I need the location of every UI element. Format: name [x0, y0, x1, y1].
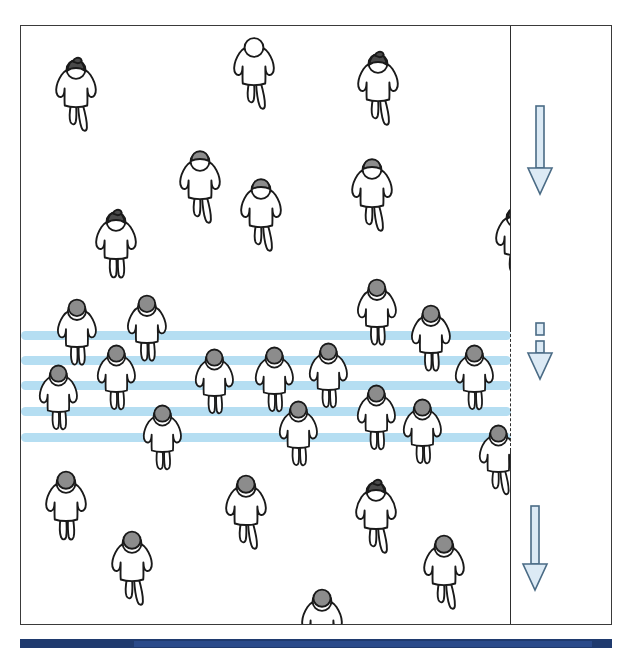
- flow-arrow-lower: [520, 506, 550, 596]
- pedestrian-figure: [33, 364, 84, 441]
- pedestrian-figure: [489, 204, 511, 286]
- diagram-frame: [20, 25, 612, 625]
- pedestrian-figure: [89, 208, 143, 290]
- pedestrian-figure: [449, 344, 500, 421]
- pedestrian-figure: [234, 176, 288, 258]
- pedestrian-figure: [345, 156, 399, 238]
- pedestrian-figure: [227, 34, 281, 116]
- pedestrian-figure: [349, 478, 403, 560]
- lane-divider-solid-bottom: [510, 451, 511, 625]
- pedestrian-figure: [417, 534, 471, 616]
- pedestrian-figure: [173, 148, 227, 230]
- flow-arrow-middle: [525, 323, 555, 385]
- lane-divider-solid-top: [510, 26, 511, 329]
- pedestrian-figure: [49, 56, 103, 138]
- pedestrian-figure: [295, 588, 349, 624]
- pedestrian-figure: [219, 474, 273, 556]
- pedestrian-figure: [473, 424, 511, 501]
- pedestrian-figure: [39, 470, 93, 552]
- bottom-accent-bar-inner-segment: [134, 641, 592, 647]
- walkway-area: [21, 26, 511, 624]
- lane-divider-dashed: [510, 329, 511, 451]
- pedestrian-figure: [351, 50, 405, 132]
- pedestrian-figure: [189, 348, 240, 425]
- pedestrian-figure: [91, 344, 142, 421]
- pedestrian-figure: [351, 384, 402, 461]
- diagram-canvas: [0, 0, 634, 651]
- pedestrian-figure: [273, 400, 324, 477]
- pedestrian-figure: [351, 278, 403, 357]
- pedestrian-figure: [397, 398, 448, 475]
- pedestrian-figure: [105, 530, 159, 612]
- flow-arrow-upper: [525, 106, 555, 200]
- pedestrian-figure: [137, 404, 188, 481]
